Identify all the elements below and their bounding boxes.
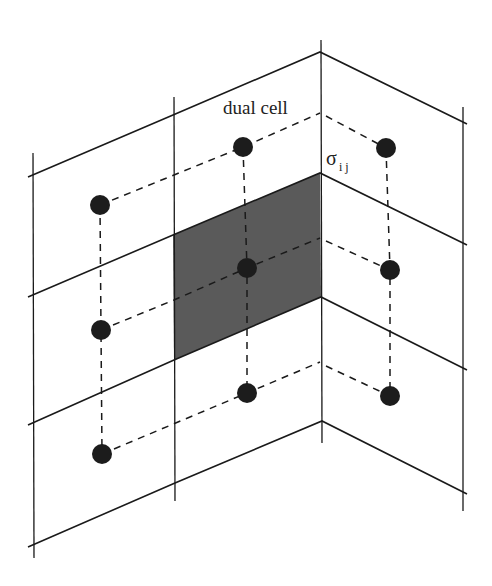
sigma-subscript: i j <box>339 160 349 174</box>
dual-point <box>237 258 257 278</box>
sigma-label: σ <box>326 147 337 169</box>
dual-cell-diagram: dual cell σ i j <box>0 0 492 586</box>
dual-point <box>237 383 257 403</box>
dual-cell-label: dual cell <box>223 97 288 118</box>
dual-point <box>92 444 112 464</box>
dual-point <box>90 195 110 215</box>
dual-point <box>380 386 400 406</box>
dual-point <box>376 138 396 158</box>
dual-point <box>380 260 400 280</box>
dual-point <box>91 320 111 340</box>
dual-point <box>233 137 253 157</box>
